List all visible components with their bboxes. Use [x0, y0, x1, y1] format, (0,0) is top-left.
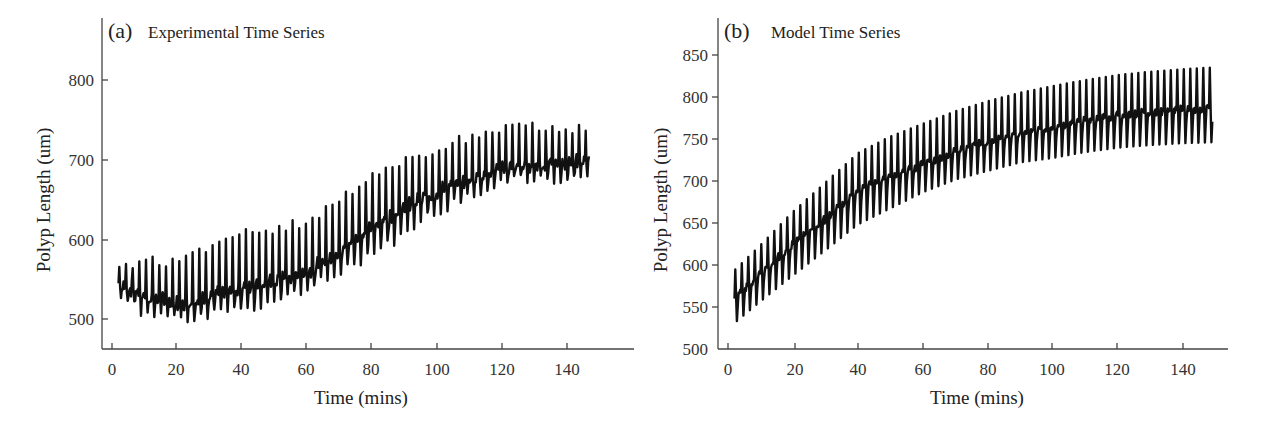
- panel-b-yticks: [712, 55, 718, 307]
- panel-b-xtick-label: 60: [915, 360, 932, 379]
- panel-b-ytick-label: 750: [683, 130, 709, 149]
- panel-a-xtick-label: 120: [489, 360, 515, 379]
- panel-b-xtick-label: 140: [1170, 360, 1196, 379]
- panel-b: 850 800 750 700 650 600 550 500 0 20 40 …: [650, 18, 1228, 409]
- panel-b-y-axis-label: Polyp Length (um): [650, 128, 672, 273]
- panel-a-x-axis-label: Time (mins): [314, 387, 408, 409]
- panel-a-xtick-label: 140: [554, 360, 580, 379]
- panel-a-letter: (a): [108, 18, 132, 43]
- panel-a-xticks: [112, 343, 567, 349]
- panel-b-xtick-label: 80: [980, 360, 997, 379]
- panel-b-series-line: [735, 68, 1213, 321]
- panel-b-ytick-label: 800: [683, 88, 709, 107]
- panel-a-series-line: [119, 123, 590, 323]
- panel-a-title: Experimental Time Series: [148, 23, 325, 42]
- panel-a-xtick-label: 80: [363, 360, 380, 379]
- panel-b-ytick-label: 850: [683, 46, 709, 65]
- panel-b-xtick-label: 20: [787, 360, 804, 379]
- panel-b-x-axis-label: Time (mins): [930, 387, 1024, 409]
- panel-a: 800 700 600 500 0 20 40 60 80 100 120 14…: [33, 18, 634, 409]
- panel-a-y-axis-label: Polyp Length (um): [33, 128, 55, 273]
- panel-a-xtick-label: 40: [233, 360, 250, 379]
- panel-a-ytick-label: 700: [69, 151, 95, 170]
- panel-b-ytick-label: 650: [683, 214, 709, 233]
- panel-b-letter: (b): [724, 18, 750, 43]
- panel-b-xtick-label: 40: [850, 360, 867, 379]
- panel-a-xtick-label: 0: [108, 360, 117, 379]
- panel-a-xtick-label: 60: [298, 360, 315, 379]
- panel-a-xtick-label: 20: [168, 360, 185, 379]
- panel-b-ytick-label: 550: [683, 298, 709, 317]
- figure: 800 700 600 500 0 20 40 60 80 100 120 14…: [0, 0, 1288, 429]
- panel-a-xtick-label: 100: [424, 360, 450, 379]
- panel-b-title: Model Time Series: [771, 23, 900, 42]
- panel-b-xtick-label: 120: [1104, 360, 1130, 379]
- panel-a-ytick-label: 500: [69, 310, 95, 329]
- panel-b-xtick-label: 0: [724, 360, 733, 379]
- panel-a-ytick-label: 600: [69, 231, 95, 250]
- panel-b-xtick-label: 100: [1039, 360, 1065, 379]
- panel-b-ytick-label: 700: [683, 172, 709, 191]
- panel-b-xticks: [728, 343, 1183, 349]
- panel-b-ytick-label: 600: [683, 256, 709, 275]
- panel-a-ytick-label: 800: [69, 71, 95, 90]
- panel-b-ytick-label: 500: [683, 340, 709, 359]
